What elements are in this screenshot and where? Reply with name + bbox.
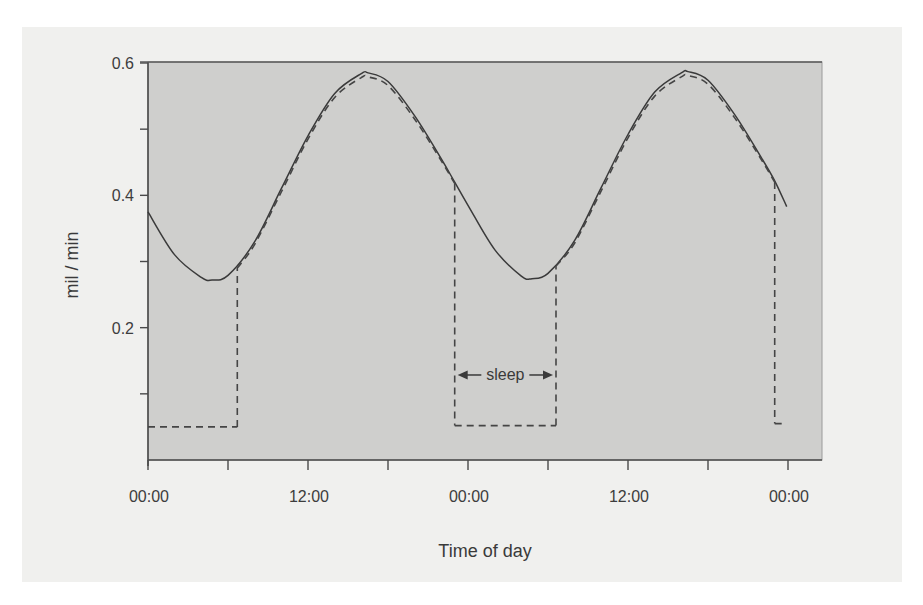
y-tick-label: 0.6 (112, 55, 134, 72)
y-tick-label: 0.2 (112, 320, 134, 337)
chart: 0.20.40.6 00:0012:0000:0012:0000:00 slee… (0, 0, 923, 605)
y-axis-title: mil / min (62, 232, 82, 299)
x-tick-label: 00:00 (769, 488, 809, 505)
x-tick-label: 00:00 (129, 488, 169, 505)
sleep-label: sleep (486, 366, 524, 383)
x-axis-title: Time of day (438, 541, 531, 561)
x-tick-label: 00:00 (449, 488, 489, 505)
x-tick-label: 12:00 (289, 488, 329, 505)
x-axis-ticks: 00:0012:0000:0012:0000:00 (129, 460, 809, 505)
y-axis-ticks: 0.20.40.6 (112, 55, 148, 394)
x-tick-label: 12:00 (609, 488, 649, 505)
y-tick-label: 0.4 (112, 187, 134, 204)
plot-area (148, 62, 822, 460)
